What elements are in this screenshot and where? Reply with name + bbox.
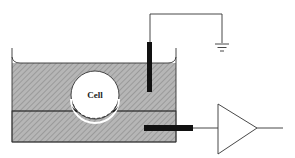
amplifier-icon <box>218 104 257 154</box>
reference-electrode <box>147 42 152 92</box>
ground-icon <box>215 44 229 51</box>
patch-clamp-diagram: Cell <box>0 0 295 158</box>
recording-electrode <box>144 125 193 131</box>
cell-label: Cell <box>87 90 103 100</box>
ground-wire <box>150 14 222 43</box>
cell: Cell <box>71 71 119 123</box>
